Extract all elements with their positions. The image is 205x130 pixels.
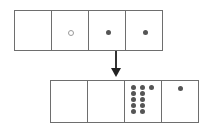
dark-dot [140,85,145,90]
dark-dot [140,109,145,114]
dark-dot [149,85,154,90]
light-dot [68,30,74,36]
top-cell-2 [52,11,89,50]
dark-dot [140,91,145,96]
bottom-row [50,80,199,123]
top-cell-4 [126,11,162,50]
bottom-cell-3 [125,81,162,122]
bottom-cell-2 [88,81,125,122]
top-row [14,10,163,51]
dark-dot [140,97,145,102]
bottom-cell-4 [162,81,198,122]
dark-dot [131,103,136,108]
dark-dot [131,91,136,96]
dark-dot [140,103,145,108]
bottom-cell-1 [51,81,88,122]
dark-dot [143,30,148,35]
top-cell-3 [89,11,126,50]
dark-dot [131,109,136,114]
dark-dot [106,30,111,35]
down-arrow-icon [111,68,121,77]
top-cell-1 [15,11,52,50]
dark-dot [178,86,183,91]
dark-dot [131,85,136,90]
dark-dot [131,97,136,102]
